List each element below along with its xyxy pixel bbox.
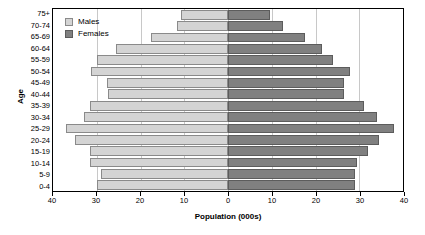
bar-female xyxy=(228,146,368,156)
y-axis-tick-label: 25-29 xyxy=(12,123,52,135)
bar-male xyxy=(75,135,228,145)
bar-row xyxy=(53,180,403,191)
bar-male xyxy=(90,146,228,156)
bar-row xyxy=(53,134,403,145)
bar-female xyxy=(228,33,305,43)
legend-item: Females xyxy=(65,30,109,38)
legend-swatch-icon xyxy=(65,30,73,38)
bar-female xyxy=(228,21,283,31)
y-axis-tick-label: 40-44 xyxy=(12,89,52,101)
bar-row xyxy=(53,157,403,168)
bar-row xyxy=(53,89,403,100)
bar-male xyxy=(101,169,228,179)
y-axis-tick-label: 75+ xyxy=(12,8,52,20)
x-axis-tick-label: 10 xyxy=(172,196,196,205)
y-axis-tick-label: 35-39 xyxy=(12,100,52,112)
x-axis-tick-label: 10 xyxy=(260,196,284,205)
bar-female xyxy=(228,101,364,111)
y-axis-tick-label: 45-49 xyxy=(12,77,52,89)
y-axis-tick-label: 30-34 xyxy=(12,112,52,124)
y-axis-tick-label: 0-4 xyxy=(12,181,52,193)
bar-male xyxy=(181,10,228,20)
x-axis-tick-label: 20 xyxy=(128,196,152,205)
bar-female xyxy=(228,169,355,179)
bar-female xyxy=(228,112,377,122)
bar-male xyxy=(66,124,228,134)
y-axis-tick-label: 20-24 xyxy=(12,135,52,147)
y-axis-tick-label: 70-74 xyxy=(12,20,52,32)
bar-row xyxy=(53,66,403,77)
chart-legend: MalesFemales xyxy=(65,18,109,42)
bar-male xyxy=(97,180,228,190)
bar-male xyxy=(84,112,228,122)
x-axis-title: Population (000s) xyxy=(52,212,404,221)
legend-label: Males xyxy=(78,18,99,26)
y-axis-tick-label: 55-59 xyxy=(12,54,52,66)
bar-female xyxy=(228,89,344,99)
x-axis-tick-label: 30 xyxy=(84,196,108,205)
bar-female xyxy=(228,135,379,145)
population-pyramid-chart: Age 75+70-7465-6960-6455-5950-5445-4940-… xyxy=(0,0,425,235)
x-axis-tick-label: 30 xyxy=(348,196,372,205)
bar-male xyxy=(90,158,228,168)
bar-male xyxy=(91,67,228,77)
y-axis-tick-label: 5-9 xyxy=(12,169,52,181)
bar-row xyxy=(53,77,403,88)
x-axis-tick-label: 20 xyxy=(304,196,328,205)
bar-row xyxy=(53,55,403,66)
bar-male xyxy=(108,89,228,99)
bar-male xyxy=(116,44,228,54)
y-axis-tick-label: 50-54 xyxy=(12,66,52,78)
x-axis-tick-label: 0 xyxy=(216,196,240,205)
bar-row xyxy=(53,123,403,134)
x-axis-tick-labels: 40302010010203040 xyxy=(52,196,404,208)
bar-male xyxy=(90,101,228,111)
x-axis-tick-label: 40 xyxy=(392,196,416,205)
legend-label: Females xyxy=(78,30,109,38)
x-axis-tick-label: 40 xyxy=(40,196,64,205)
bar-male xyxy=(151,33,228,43)
bar-male xyxy=(107,78,228,88)
bar-female xyxy=(228,55,333,65)
legend-swatch-icon xyxy=(65,18,73,26)
y-axis-tick-label: 10-14 xyxy=(12,158,52,170)
bar-row xyxy=(53,111,403,122)
y-axis-tick-label: 60-64 xyxy=(12,43,52,55)
bar-female xyxy=(228,124,394,134)
legend-item: Males xyxy=(65,18,109,26)
bar-row xyxy=(53,100,403,111)
y-axis-tick-labels: 75+70-7465-6960-6455-5950-5445-4940-4435… xyxy=(12,8,52,192)
bar-male xyxy=(177,21,228,31)
bar-female xyxy=(228,78,344,88)
bar-female xyxy=(228,67,350,77)
plot-area: MalesFemales xyxy=(52,8,404,192)
bar-female xyxy=(228,180,355,190)
y-axis-tick-label: 15-19 xyxy=(12,146,52,158)
bar-female xyxy=(228,44,322,54)
bar-row xyxy=(53,146,403,157)
bar-row xyxy=(53,168,403,179)
bar-female xyxy=(228,10,270,20)
bar-row xyxy=(53,43,403,54)
y-axis-tick-label: 65-69 xyxy=(12,31,52,43)
bar-female xyxy=(228,158,357,168)
bar-male xyxy=(97,55,228,65)
